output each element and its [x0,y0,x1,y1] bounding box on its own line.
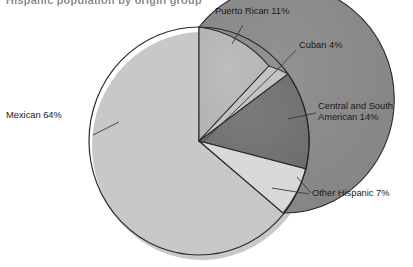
slice-label-central-line-2: American 14% [318,112,413,123]
slice-label-mexican: Mexican 64% [6,110,62,121]
pie-chart [0,0,413,267]
slice-label-central-line-1: Central and South [318,101,413,112]
figure-canvas: Hispanic population by origin group [0,0,413,267]
slice-label-puerto-rican: Puerto Rican 11% [215,6,289,17]
slice-label-cuban: Cuban 4% [299,40,342,51]
slice-label-central-and-south-american: Central and South American 14% [318,101,413,124]
slice-label-other-hispanic: Other Hispanic 7% [312,188,390,199]
